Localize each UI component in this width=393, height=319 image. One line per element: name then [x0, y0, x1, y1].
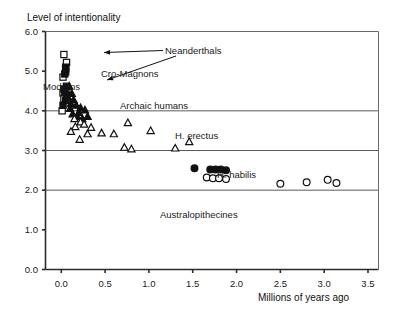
data-point-australopithecines [324, 176, 331, 183]
leader-neanderthals-upper [104, 50, 163, 55]
y-tick-label-4: 4.0 [12, 105, 38, 116]
annotation-australopithecines: Australopithecines [160, 210, 238, 220]
y-axis-title: Level of intentionality [27, 12, 120, 23]
data-point-h-habilis [191, 165, 198, 172]
data-point-australopithecines [333, 180, 340, 187]
y-tick-label-0: 0.0 [12, 264, 38, 275]
annotation-cro-magnons: Cro-Magnons [101, 69, 159, 79]
data-point-h-erectus [110, 130, 117, 137]
data-point-h-erectus [76, 136, 83, 143]
data-point-australopithecines [303, 179, 310, 186]
data-point-h-erectus [128, 145, 135, 152]
x-tick-label-6: 3.0 [309, 278, 339, 289]
x-tick-label-3: 1.5 [178, 278, 208, 289]
data-point-h-erectus [98, 129, 105, 136]
x-axis-title: Millions of years ago [258, 292, 349, 303]
x-tick-label-1: 0.5 [90, 278, 120, 289]
x-tick-label-5: 2.5 [265, 278, 295, 289]
data-point-australopithecines [277, 180, 284, 187]
annotation-neanderthals: Neanderthals [165, 46, 222, 56]
scatter-plot-figure: Level of intentionality Millions of year… [0, 0, 393, 319]
y-tick-label-3: 3.0 [12, 145, 38, 156]
data-point-h-erectus [87, 124, 94, 131]
y-tick-label-6: 6.0 [12, 26, 38, 37]
data-point-h-erectus [124, 119, 131, 126]
y-tick-label-5: 5.0 [12, 65, 38, 76]
data-point-h-erectus [172, 144, 179, 151]
data-point-archaic-humans [84, 113, 91, 120]
annotation-h-erectus: H. erectus [175, 131, 218, 141]
annotation-h-habilis: H. habilis [217, 170, 256, 180]
data-point-h-erectus [84, 130, 91, 137]
x-tick-label-7: 3.5 [353, 278, 383, 289]
y-tick-label-1: 1.0 [12, 224, 38, 235]
x-tick-label-4: 2.0 [222, 278, 252, 289]
annotation-archaic-humans: Archaic humans [120, 101, 188, 111]
tick-marks [42, 32, 368, 274]
y-tick-label-2: 2.0 [12, 184, 38, 195]
data-point-cro-magnons [61, 51, 67, 57]
data-point-neanderthals [63, 66, 69, 72]
data-point-h-erectus [121, 144, 128, 151]
annotation-moderns: Moderns [43, 82, 80, 92]
data-point-h-erectus [147, 127, 154, 134]
data-point-moderns [60, 102, 66, 108]
x-tick-label-2: 1.0 [134, 278, 164, 289]
x-tick-label-0: 0.0 [46, 278, 76, 289]
